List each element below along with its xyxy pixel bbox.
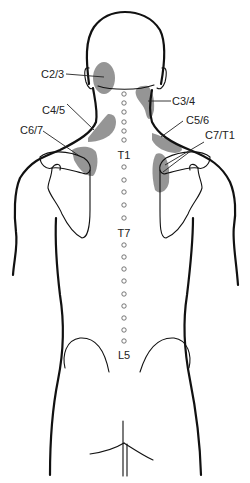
label-t1: T1 bbox=[118, 149, 131, 161]
label-c4-5: C4/5 bbox=[42, 104, 65, 116]
label-c7-t1: C7/T1 bbox=[205, 129, 235, 141]
label-c6-7: C6/7 bbox=[20, 124, 43, 136]
left-torso bbox=[50, 218, 63, 475]
label-t7: T7 bbox=[118, 227, 131, 239]
label-c5-6: C5/6 bbox=[186, 114, 209, 126]
label-c3-4: C3/4 bbox=[172, 95, 195, 107]
left-gluteal-fold bbox=[90, 443, 124, 454]
spinous-processes bbox=[122, 92, 126, 343]
right-gluteal-fold bbox=[124, 443, 153, 460]
zone-c5-6 bbox=[152, 133, 182, 153]
right-iliac-crest bbox=[140, 338, 190, 372]
label-c2-3: C2/3 bbox=[41, 68, 64, 80]
left-neck-shoulder bbox=[13, 88, 97, 275]
label-l5: L5 bbox=[118, 349, 130, 361]
left-iliac-crest bbox=[64, 338, 109, 372]
gluteal-cleft bbox=[123, 421, 127, 476]
back-pain-referral-diagram: T1 T7 L5 C2/3 C3/4 C4/5 C5/6 C6/7 C7/T1 bbox=[0, 0, 250, 483]
left-scapula-blade bbox=[48, 168, 90, 238]
